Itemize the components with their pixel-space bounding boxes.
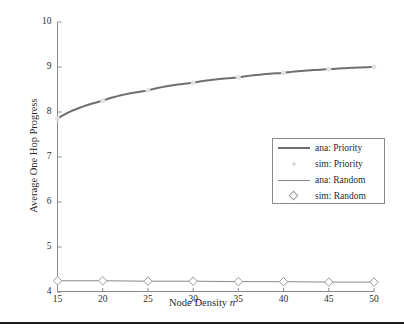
data-point-sim-priority (101, 99, 105, 103)
legend-item: sim: Priority (273, 156, 386, 172)
legend-key (273, 172, 315, 188)
data-point-sim-random (234, 277, 242, 285)
footer-rule (0, 322, 404, 324)
figure: 45678910 1520253035404550 Node Density n… (0, 0, 404, 333)
data-point-sim-priority (327, 67, 331, 71)
x-axis-title: Node Density n (0, 297, 404, 308)
legend-key-diamond-icon (289, 190, 299, 200)
data-point-sim-random (144, 277, 152, 285)
y-tick-label: 10 (26, 16, 52, 26)
legend-item: ana: Random (273, 172, 386, 188)
data-point-sim-random (279, 277, 287, 285)
data-point-sim-random (99, 277, 107, 285)
data-point-sim-random (53, 277, 61, 285)
legend-key (273, 156, 315, 172)
legend-label: sim: Random (315, 191, 366, 201)
y-axis-title: Average One Hop Progress (28, 61, 39, 251)
data-point-sim-priority (236, 75, 240, 79)
data-point-sim-priority (372, 65, 376, 69)
y-tick-marks (58, 22, 62, 292)
series-line-ana-priority (58, 67, 375, 119)
legend-label: sim: Priority (315, 159, 363, 169)
legend: ana: Prioritysim: Priorityana: Randomsim… (272, 138, 385, 204)
data-point-sim-priority (191, 81, 195, 85)
series-markers-sim-priority (55, 65, 376, 121)
legend-item: ana: Priority (273, 140, 386, 156)
data-point-sim-random (370, 278, 378, 286)
x-axis-title-text: Node Density (169, 297, 227, 308)
x-axis-title-variable: n (230, 297, 235, 308)
data-point-sim-priority (281, 71, 285, 75)
legend-key-dot-icon (292, 162, 296, 166)
data-point-sim-priority (55, 117, 59, 121)
legend-key-line-thin-icon (278, 180, 310, 181)
data-point-sim-random (189, 277, 197, 285)
legend-label: ana: Random (315, 175, 365, 185)
legend-key-line-thick-icon (278, 147, 310, 149)
legend-label: ana: Priority (315, 143, 362, 153)
data-point-sim-random (325, 278, 333, 286)
data-point-sim-priority (146, 88, 150, 92)
legend-item: sim: Random (273, 188, 386, 204)
legend-key (273, 140, 315, 156)
legend-key (273, 188, 315, 204)
